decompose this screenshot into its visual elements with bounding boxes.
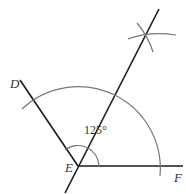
ray-ed (20, 80, 78, 166)
construction-diagram: D E F 125° (0, 0, 186, 194)
label-e: E (64, 160, 73, 175)
label-f: F (173, 170, 183, 185)
construction-arc-from-d (128, 34, 176, 39)
label-d: D (9, 76, 20, 91)
angle-label: 125° (84, 123, 107, 137)
